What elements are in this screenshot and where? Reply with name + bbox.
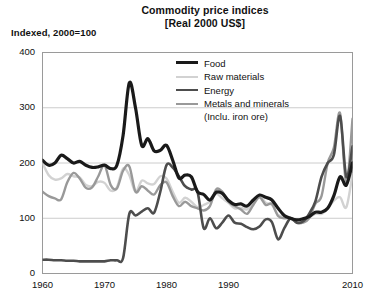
legend-item-label: Energy [204, 84, 234, 98]
x-axis-tick-label: 2010 [331, 279, 375, 290]
legend-item[interactable]: Food [176, 56, 289, 70]
chart-legend: FoodRaw materialsEnergyMetals and minera… [176, 56, 289, 124]
legend-color-swatch [176, 89, 198, 91]
x-axis-tick-label: 1980 [145, 279, 189, 290]
legend-color-swatch [176, 103, 198, 105]
legend-item[interactable]: Energy [176, 83, 289, 97]
x-axis-tick-label: 1970 [83, 279, 127, 290]
legend-item[interactable]: Metals and minerals [176, 97, 289, 111]
y-axis-tick-label: 100 [5, 212, 35, 223]
x-axis-tick-label: 1960 [21, 279, 65, 290]
legend-item-label: Metals and minerals [204, 97, 289, 111]
legend-color-swatch [176, 61, 198, 64]
legend-item-label: Raw materials [204, 70, 264, 84]
chart-page: Commodity price indices [Real 2000 US$] … [0, 0, 377, 299]
legend-item-label: Food [204, 57, 226, 71]
x-axis-tick-label: 1990 [207, 279, 251, 290]
y-axis-tick-label: 200 [5, 157, 35, 168]
y-axis-tick-label: 300 [5, 101, 35, 112]
y-axis-tick-label: 0 [5, 267, 35, 278]
y-axis-tick-label: 400 [5, 46, 35, 57]
chart-plot [0, 0, 377, 299]
legend-item-sublabel: (Inclu. iron ore) [204, 110, 289, 124]
legend-color-swatch [176, 76, 198, 78]
legend-item[interactable]: Raw materials [176, 70, 289, 84]
